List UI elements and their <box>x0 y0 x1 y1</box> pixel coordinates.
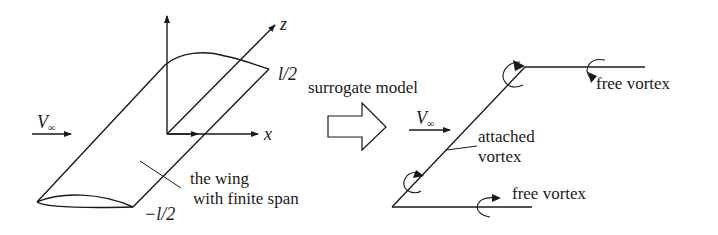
span-top-label: l/2 <box>278 64 297 84</box>
span-bottom-label: −l/2 <box>144 204 175 224</box>
attached-leader-line <box>447 146 477 150</box>
flow-label-left: V∞ <box>37 112 55 133</box>
surrogate-model-label: surrogate model <box>308 78 418 97</box>
attached-label-line1: attached <box>478 127 535 146</box>
diagram-canvas: V∞ z x l/2 −l/2 the wing with finite spa… <box>0 0 718 235</box>
free-vortex-bottom-arrow <box>492 194 501 202</box>
z-axis-label: z <box>279 14 287 34</box>
flow-label-right: V∞ <box>416 108 434 129</box>
attached-label-line2: vortex <box>478 147 522 166</box>
wing-root-airfoil-lower <box>37 202 133 207</box>
free-vortex-bottom-label: free vortex <box>512 184 587 203</box>
wing-label-line2: with finite span <box>193 189 299 208</box>
hollow-right-arrow-icon <box>328 103 386 150</box>
wing-label-line1: the wing <box>190 169 250 188</box>
attached-vortex-arrow-bottom <box>413 170 424 178</box>
x-axis-label: x <box>263 124 272 144</box>
wing-tip-airfoil-top <box>165 53 269 69</box>
free-vortex-top-label: free vortex <box>596 74 671 93</box>
